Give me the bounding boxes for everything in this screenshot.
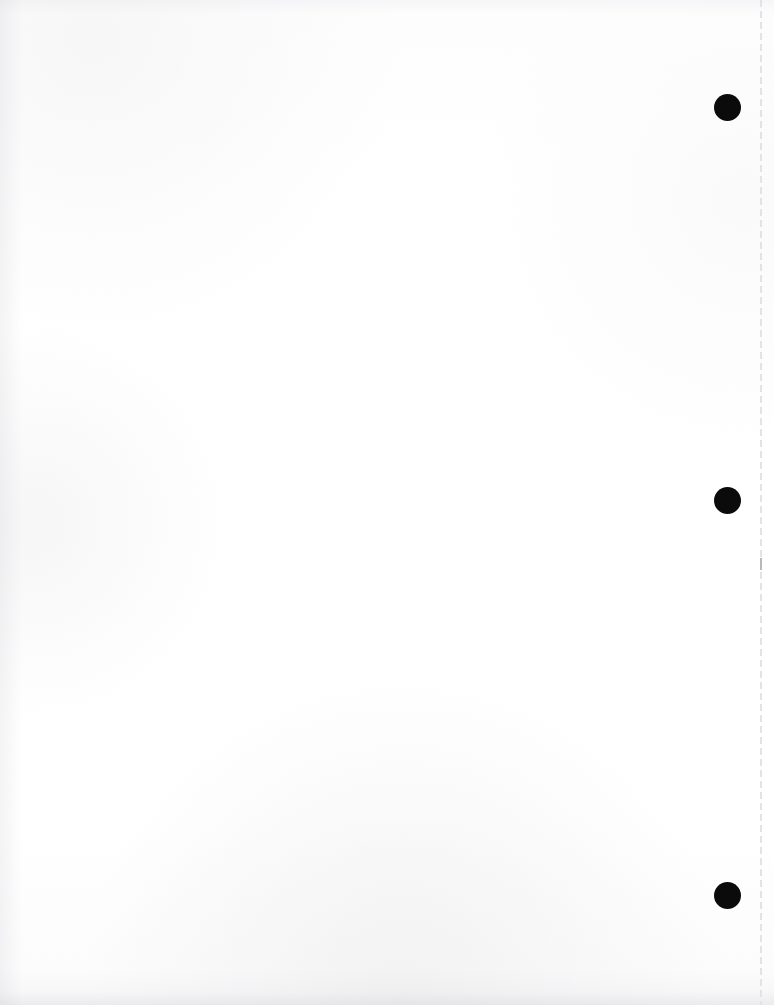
perforation-dash-accent [760, 558, 762, 570]
punch-hole-bottom [714, 882, 741, 909]
punch-hole-top [714, 94, 741, 121]
punch-hole-middle [714, 487, 741, 514]
page-content-area [0, 0, 754, 1005]
scanned-page [0, 0, 774, 1005]
perforation-dashed-line [760, 0, 762, 1005]
